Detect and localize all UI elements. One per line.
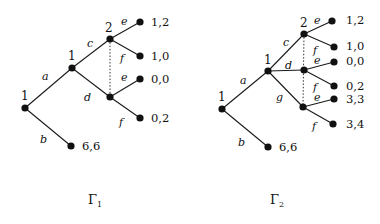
terminal-node (330, 58, 337, 65)
root-node (218, 105, 225, 112)
action-label-e-bottom: e (121, 71, 128, 84)
game-tree-gamma2: 1 1 2 a b c d g e f e f e f 1,2 1,0 0,0 … (218, 13, 364, 209)
action-label-a: a (42, 70, 49, 83)
terminal-node (330, 82, 337, 89)
decision-node-player2-bottom (106, 93, 113, 100)
payoff-b: 6,6 (279, 140, 297, 154)
decision-node-player2-c (300, 30, 307, 37)
root-node (21, 104, 28, 111)
action-label-d: d (285, 59, 292, 72)
action-label-f-bottom: f (118, 116, 125, 129)
edge-g (268, 71, 303, 107)
terminal-node (136, 52, 143, 59)
terminal-node (136, 114, 143, 121)
action-label-g: g (276, 91, 283, 104)
action-label-e-d: e (314, 54, 321, 67)
player-label-root: 1 (218, 90, 226, 104)
terminal-node (329, 120, 336, 127)
action-label-d: d (84, 91, 91, 104)
action-label-b: b (238, 136, 245, 149)
terminal-node (136, 75, 143, 82)
action-label-e-c: e (314, 14, 321, 27)
action-label-e-g: e (314, 91, 321, 104)
edge-f-top (110, 39, 140, 56)
player-label-second: 1 (264, 53, 272, 67)
action-label-f-top: f (119, 52, 126, 65)
payoff-ce: 1,2 (346, 13, 364, 27)
payoff-ge: 3,3 (346, 92, 364, 106)
payoff-b: 6,6 (82, 139, 100, 153)
edge-b (25, 108, 71, 146)
game-tree-gamma1: 1 1 2 a b c d e f e f 1,2 1,0 0,0 0,2 6,… (21, 15, 169, 209)
action-label-e-top: e (121, 15, 128, 28)
decision-node-player2-top (106, 35, 113, 42)
decision-node-player1 (264, 67, 271, 74)
payoff-ce: 1,2 (151, 15, 169, 29)
player-label-info-set: 2 (300, 16, 308, 30)
decision-node-player2-d (300, 66, 307, 73)
terminal-node (330, 43, 337, 50)
action-label-f-g: f (311, 120, 318, 133)
edge-f-bottom (110, 97, 140, 118)
action-label-a: a (240, 74, 247, 87)
payoff-df: 0,2 (346, 79, 364, 93)
game-title-gamma2: Γ2 (270, 192, 284, 209)
terminal-node (330, 95, 337, 102)
terminal-node (264, 143, 271, 150)
terminal-node (136, 18, 143, 25)
edge-f-d (304, 70, 334, 86)
payoff-de: 0,0 (151, 72, 169, 86)
game-title-gamma1: Γ1 (88, 192, 102, 209)
edge-f-c (304, 34, 334, 47)
payoff-df: 0,2 (151, 111, 169, 125)
payoff-cf: 1,0 (151, 49, 169, 63)
action-label-c: c (283, 36, 289, 49)
payoff-de: 0,0 (346, 54, 364, 68)
payoff-cf: 1,0 (346, 39, 364, 53)
decision-node-player1 (68, 64, 75, 71)
player-label-root: 1 (21, 89, 29, 103)
action-label-c: c (87, 37, 93, 50)
decision-node-player2-g (299, 103, 306, 110)
player-label-second: 1 (68, 49, 76, 63)
terminal-node (67, 142, 74, 149)
edge-f-g (303, 107, 333, 124)
terminal-node (328, 17, 335, 24)
action-label-b: b (40, 133, 47, 146)
player-label-info-set: 2 (105, 21, 113, 35)
game-trees-figure: 1 1 2 a b c d e f e f 1,2 1,0 0,0 0,2 6,… (0, 0, 380, 224)
payoff-gf: 3,4 (346, 117, 364, 131)
